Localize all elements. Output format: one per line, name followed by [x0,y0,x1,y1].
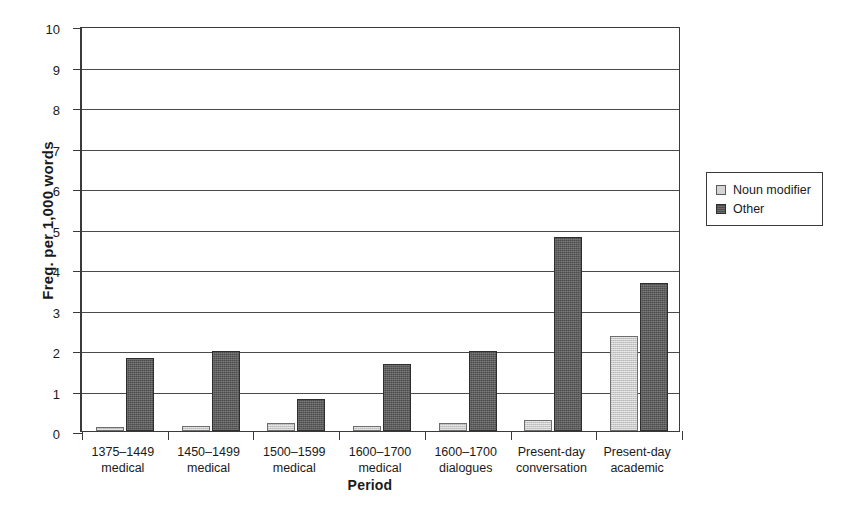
y-axis-tick: 3 [73,312,82,313]
y-axis-tick: 1 [73,393,82,394]
x-axis-category-label-line: academic [594,460,680,476]
x-axis-tick [168,431,169,440]
bar-group [524,28,582,431]
x-axis-tick [511,431,512,440]
x-axis-category-label: 1600–1700dialogues [423,444,509,476]
bar-noun-modifier [267,423,295,431]
y-axis-tick: 8 [73,109,82,110]
bar-noun-modifier [524,420,552,431]
x-axis-category-label: 1375–1449medical [80,444,166,476]
legend-label-noun-modifier: Noun modifier [733,183,811,197]
x-axis-tick [596,431,597,440]
y-axis-tick-label: 3 [53,305,60,320]
bar-noun-modifier [439,423,467,431]
y-axis-tick-label: 4 [53,265,60,280]
y-axis-tick-label: 2 [53,346,60,361]
x-axis-category-label-line: 1600–1700 [337,444,423,460]
y-axis-tick-label: 0 [53,427,60,442]
y-axis-tick: 5 [73,231,82,232]
y-axis-tick: 7 [73,150,82,151]
bar-noun-modifier [353,426,381,431]
bar-other [126,358,154,431]
bar-group [182,28,240,431]
y-axis-tick-label: 9 [53,62,60,77]
x-axis-title: Period [60,477,680,493]
x-axis-category-label: Present-dayacademic [594,444,680,476]
bar-group [439,28,497,431]
bar-other [383,364,411,431]
bar-group [610,28,668,431]
x-axis-category-label-line: medical [337,460,423,476]
y-axis-tick-label: 1 [53,386,60,401]
x-axis-category-label: 1450–1499medical [166,444,252,476]
x-axis-category-label-line: Present-day [509,444,595,460]
y-axis-tick-label: 6 [53,184,60,199]
x-axis-category-label-line: 1450–1499 [166,444,252,460]
bar-other [297,399,325,431]
x-axis-category-label: Present-dayconversation [509,444,595,476]
x-axis-category-label-line: medical [80,460,166,476]
legend-swatch-other [716,204,726,214]
bar-other [469,351,497,431]
y-axis-tick: 6 [73,190,82,191]
y-axis-tick-label: 5 [53,224,60,239]
y-axis-tick: 0 [73,433,82,434]
bar-group [96,28,154,431]
x-axis-category-label-line: 1375–1449 [80,444,166,460]
y-axis-tick-label: 7 [53,143,60,158]
plot-area: 012345678910 [80,27,680,432]
y-axis-tick: 9 [73,69,82,70]
legend-item-noun-modifier: Noun modifier [716,180,811,199]
bar-other [640,283,668,431]
legend-item-other: Other [716,199,811,218]
y-axis-tick: 2 [73,352,82,353]
bar-noun-modifier [96,427,124,431]
bar-other [554,237,582,431]
x-axis-category-label-line: 1600–1700 [423,444,509,460]
x-axis-category-label-line: dialogues [423,460,509,476]
x-axis-tick [682,431,683,440]
x-axis-tick [253,431,254,440]
legend-label-other: Other [733,202,764,216]
x-axis-category-label: 1500–1599medical [251,444,337,476]
x-axis-tick [425,431,426,440]
legend: Noun modifier Other [706,172,823,226]
x-axis-tick [339,431,340,440]
y-axis-tick-label: 8 [53,103,60,118]
bar-group [267,28,325,431]
x-axis-category-label-line: Present-day [594,444,680,460]
x-axis-category-label-line: medical [166,460,252,476]
bar-noun-modifier [610,336,638,431]
bar-other [212,351,240,431]
bar-noun-modifier [182,426,210,431]
x-axis-tick [82,431,83,440]
x-axis-category-label-line: conversation [509,460,595,476]
bar-group [353,28,411,431]
legend-swatch-noun-modifier [716,185,726,195]
bar-chart: Freq. per 1,000 words 012345678910 Perio… [0,0,854,512]
x-axis-category-label-line: 1500–1599 [251,444,337,460]
x-axis-category-label-line: medical [251,460,337,476]
x-axis-category-label: 1600–1700medical [337,444,423,476]
y-axis-tick-label: 10 [46,22,60,37]
y-axis-tick: 4 [73,271,82,272]
y-axis-tick: 10 [73,28,82,29]
